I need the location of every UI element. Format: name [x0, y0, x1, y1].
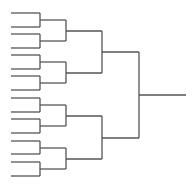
tournament-bracket: [0, 0, 195, 187]
